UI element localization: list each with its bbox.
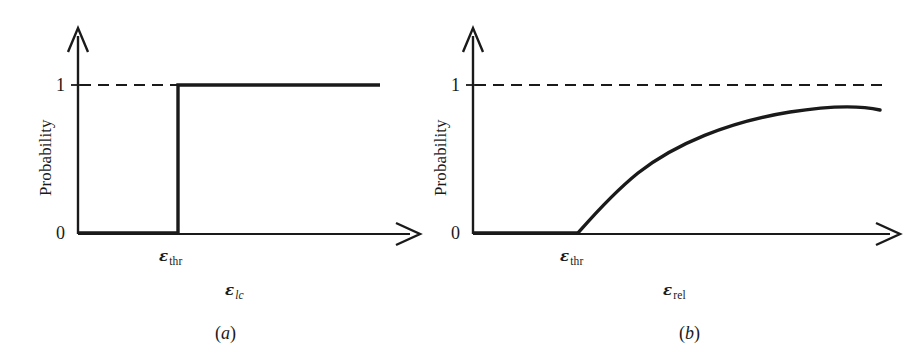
caption-close-paren-b: ): [694, 323, 700, 343]
panel-caption-a: (a): [215, 324, 236, 342]
y-tick-label-zero-b: 0: [451, 224, 460, 242]
epsilon-glyph-threshold-b: ε: [560, 247, 569, 265]
x-axis-label-a: εlc: [225, 283, 244, 301]
panel-a-plot: [0, 0, 460, 358]
y-axis-label-b: Probability: [431, 119, 451, 196]
panel-b: Probability 1 0 εthr εrel (b): [460, 0, 920, 358]
panel-b-plot: [460, 0, 920, 358]
epsilon-glyph-threshold-a: ε: [159, 247, 168, 265]
y-tick-label-one-b: 1: [451, 76, 460, 94]
x-threshold-label-b: εthr: [560, 249, 584, 267]
caption-close-paren-a: ): [230, 323, 236, 343]
y-axis-label-a: Probability: [36, 119, 56, 196]
x-axis-subscript-b: rel: [672, 289, 686, 301]
y-axis-b: [463, 28, 483, 234]
smooth-probability-curve-b: [578, 107, 880, 233]
step-probability-curve-a: [79, 85, 380, 233]
x-threshold-subscript-a: thr: [168, 255, 182, 267]
y-tick-label-one-a: 1: [56, 76, 65, 94]
x-axis-subscript-a: lc: [234, 289, 244, 301]
y-tick-label-zero-a: 0: [56, 224, 65, 242]
y-axis-a: [68, 28, 88, 234]
caption-letter-a: a: [221, 323, 230, 343]
panel-caption-b: (b): [679, 324, 700, 342]
x-axis-label-b: εrel: [663, 283, 686, 301]
figure-two-panel-probability: Probability 1 0 εthr εlc (a): [0, 0, 920, 358]
x-threshold-label-a: εthr: [159, 249, 183, 267]
caption-letter-b: b: [685, 323, 694, 343]
epsilon-glyph-axis-b: ε: [663, 281, 672, 299]
epsilon-glyph-axis-a: ε: [225, 281, 234, 299]
x-threshold-subscript-b: thr: [569, 255, 583, 267]
panel-a: Probability 1 0 εthr εlc (a): [0, 0, 460, 358]
